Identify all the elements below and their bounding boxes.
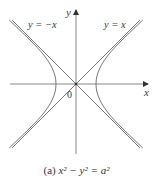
hyperbola-plot: y x 0 y = −x y = x: [0, 0, 153, 160]
caption-equation: x² − y² = a²: [58, 164, 109, 176]
origin-label: 0: [67, 89, 72, 100]
x-axis-label: x: [143, 86, 149, 98]
caption-prefix: (a): [44, 164, 56, 176]
y-axis-label: y: [65, 6, 71, 18]
asymptote-neg-label: y = −x: [27, 19, 57, 30]
asymptote-pos-label: y = x: [103, 19, 126, 30]
origin-point: [75, 83, 78, 86]
figure-caption: (a) x² − y² = a²: [0, 164, 153, 176]
